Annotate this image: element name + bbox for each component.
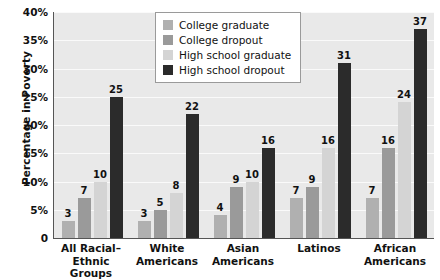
bar[interactable] (186, 114, 199, 238)
bar-value-label: 25 (109, 84, 123, 95)
bar-item[interactable]: 25 (110, 12, 123, 238)
y-axis-tick-label: 20% (2, 119, 48, 131)
bar-value-label: 37 (413, 16, 427, 27)
bar-value-label: 7 (369, 185, 376, 196)
legend-label: College dropout (179, 34, 263, 46)
y-axis-tick-label: 0 (2, 232, 48, 244)
bar-item[interactable]: 24 (398, 12, 411, 238)
bar-item[interactable]: 3 (62, 12, 75, 238)
bar[interactable] (306, 187, 319, 238)
legend-label: High school graduate (179, 49, 291, 61)
y-axis-tick-label: 15% (2, 147, 48, 159)
y-axis-tick-label: 35% (2, 34, 48, 46)
bar-item[interactable]: 16 (322, 12, 335, 238)
legend-label: College graduate (179, 19, 269, 31)
bar-value-label: 24 (397, 89, 411, 100)
bar-value-label: 3 (65, 208, 72, 219)
bar[interactable] (398, 102, 411, 238)
bar[interactable] (262, 148, 275, 238)
y-axis-tick-label: 25% (2, 91, 48, 103)
bar[interactable] (154, 210, 167, 238)
bar-group: 371025 (54, 12, 130, 238)
bar-value-label: 9 (233, 174, 240, 185)
bar-value-label: 22 (185, 101, 199, 112)
bar[interactable] (230, 187, 243, 238)
bar-value-label: 16 (261, 135, 275, 146)
bar-item[interactable]: 3 (138, 12, 151, 238)
bar[interactable] (366, 198, 379, 238)
bar[interactable] (170, 193, 183, 238)
bar-value-label: 8 (173, 180, 180, 191)
chart-legend: College graduateCollege dropoutHigh scho… (155, 12, 301, 83)
bar-value-label: 3 (141, 208, 148, 219)
bar-group: 7162437 (358, 12, 434, 238)
bar-value-label: 9 (309, 174, 316, 185)
bar-item[interactable]: 37 (414, 12, 427, 238)
y-axis-tick-label: 10% (2, 176, 48, 188)
x-axis-tick-label: AsianAmericans (205, 242, 281, 280)
bar[interactable] (414, 29, 427, 238)
bar-value-label: 7 (81, 185, 88, 196)
bar[interactable] (382, 148, 395, 238)
y-axis-tick-label: 5% (2, 204, 48, 216)
y-axis-tick-labels: 05%10%15%20%25%30%35%40% (0, 12, 48, 238)
bar[interactable] (78, 198, 91, 238)
bar-value-label: 16 (381, 135, 395, 146)
bar-value-label: 7 (293, 185, 300, 196)
bar[interactable] (214, 215, 227, 238)
legend-swatch-icon (163, 20, 173, 30)
bar[interactable] (338, 63, 351, 238)
legend-item[interactable]: College dropout (163, 32, 291, 47)
x-axis-tick-label: All Racial–EthnicGroups (53, 242, 129, 280)
bar-item[interactable]: 7 (366, 12, 379, 238)
bar-item[interactable]: 10 (94, 12, 107, 238)
bar-value-label: 5 (157, 197, 164, 208)
x-axis-tick-label: Latinos (281, 242, 357, 280)
bar[interactable] (290, 198, 303, 238)
bar-item[interactable]: 7 (78, 12, 91, 238)
bar-item[interactable]: 31 (338, 12, 351, 238)
x-axis-tick-label: WhiteAmericans (129, 242, 205, 280)
y-axis-tick-label: 30% (2, 63, 48, 75)
bar-item[interactable]: 16 (382, 12, 395, 238)
bar[interactable] (246, 182, 259, 239)
bar-value-label: 4 (217, 202, 224, 213)
legend-swatch-icon (163, 35, 173, 45)
bar[interactable] (94, 182, 107, 239)
bar[interactable] (110, 97, 123, 238)
legend-label: High school dropout (179, 64, 285, 76)
legend-swatch-icon (163, 65, 173, 75)
bar[interactable] (138, 221, 151, 238)
bar-item[interactable]: 9 (306, 12, 319, 238)
legend-item[interactable]: High school dropout (163, 62, 291, 77)
bar-value-label: 10 (245, 169, 259, 180)
y-axis-tick-label: 40% (2, 6, 48, 18)
bar-value-label: 16 (321, 135, 335, 146)
bar-value-label: 31 (337, 50, 351, 61)
legend-swatch-icon (163, 50, 173, 60)
bar-value-label: 10 (93, 169, 107, 180)
bar[interactable] (322, 148, 335, 238)
x-axis-tick-labels: All Racial–EthnicGroupsWhiteAmericansAsi… (53, 242, 433, 280)
bar[interactable] (62, 221, 75, 238)
legend-item[interactable]: College graduate (163, 17, 291, 32)
x-axis-tick-label: AfricanAmericans (357, 242, 433, 280)
legend-item[interactable]: High school graduate (163, 47, 291, 62)
